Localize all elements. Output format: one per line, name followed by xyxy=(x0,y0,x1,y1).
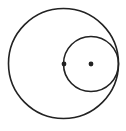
center-point-large-circle xyxy=(62,62,67,67)
center-point-small-circle xyxy=(89,62,94,67)
diagram-canvas xyxy=(0,0,126,131)
